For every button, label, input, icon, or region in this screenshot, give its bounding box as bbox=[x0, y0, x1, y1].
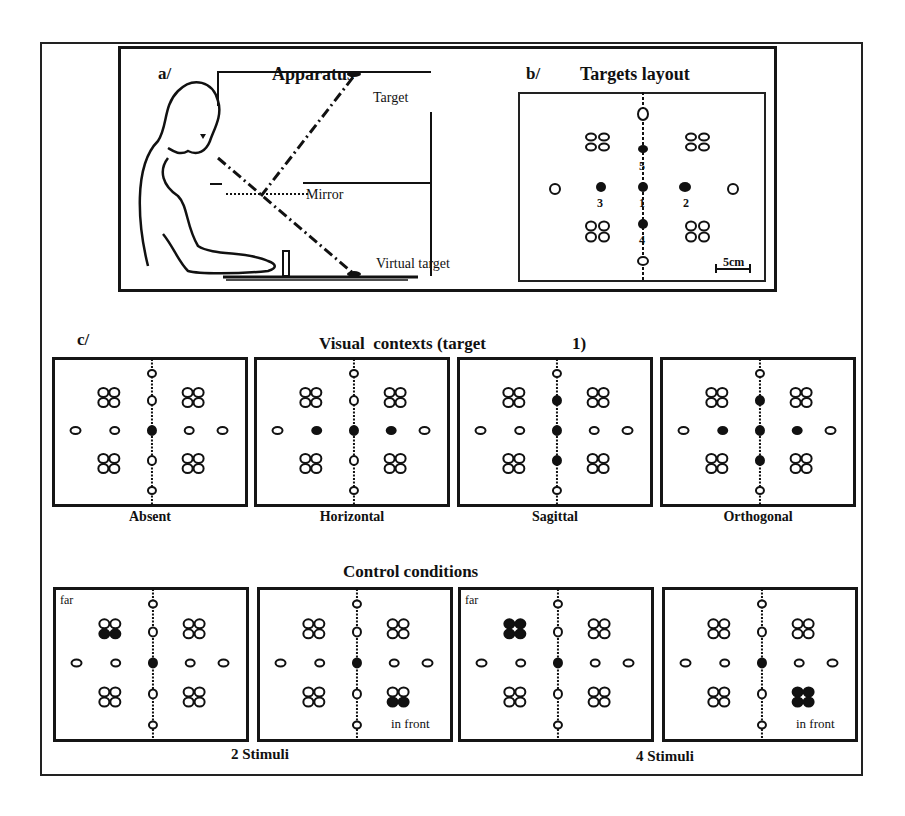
targets-layout-diagram bbox=[518, 92, 766, 282]
label-target: Target bbox=[373, 90, 408, 106]
target-number-1: 1 bbox=[639, 196, 645, 211]
label-mirror: Mirror bbox=[306, 187, 343, 203]
context-stimulus-diagram bbox=[660, 357, 856, 507]
context-stimulus-diagram bbox=[52, 357, 248, 507]
caption-2-stimuli: 2 Stimuli bbox=[180, 746, 340, 763]
context-label-horizontal: Horizontal bbox=[254, 509, 450, 525]
control-note-in-front: in front bbox=[796, 716, 835, 732]
control-note-in-front: in front bbox=[391, 716, 430, 732]
target-number-5: 5 bbox=[639, 159, 645, 174]
control-stimulus-diagram bbox=[53, 587, 249, 742]
control-stimulus-diagram bbox=[458, 587, 654, 742]
visual-contexts-title: Visual contexts (target bbox=[319, 334, 486, 354]
scale-bar-label: 5cm bbox=[723, 255, 744, 270]
target-number-2: 2 bbox=[683, 196, 689, 211]
visual-contexts-target: 1) bbox=[572, 334, 586, 354]
context-label-absent: Absent bbox=[52, 509, 248, 525]
context-label-orthogonal: Orthogonal bbox=[660, 509, 856, 525]
control-note-far: far bbox=[60, 593, 73, 608]
panel-b-title: Targets layout bbox=[580, 64, 690, 85]
apparatus-diagram bbox=[118, 46, 518, 296]
context-stimulus-diagram bbox=[254, 357, 450, 507]
control-note-far: far bbox=[465, 593, 478, 608]
label-virtual-target: Virtual target bbox=[376, 256, 450, 272]
control-conditions-title: Control conditions bbox=[343, 562, 478, 582]
panel-c-tag: c/ bbox=[77, 330, 89, 350]
caption-4-stimuli: 4 Stimuli bbox=[585, 748, 745, 765]
target-number-3: 3 bbox=[597, 196, 603, 211]
target-number-4: 4 bbox=[639, 233, 645, 248]
panel-b-tag: b/ bbox=[526, 64, 540, 84]
context-label-sagittal: Sagittal bbox=[457, 509, 653, 525]
context-stimulus-diagram bbox=[457, 357, 653, 507]
